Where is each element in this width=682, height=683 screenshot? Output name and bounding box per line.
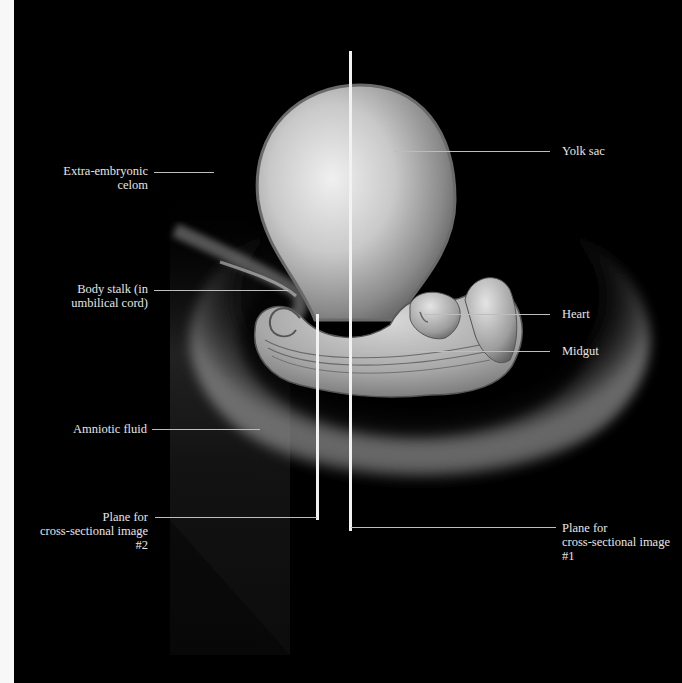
label-plane-1: Plane for cross-sectional image #1 — [562, 521, 670, 563]
leader-plane-1 — [351, 527, 556, 528]
label-heart: Heart — [562, 307, 590, 321]
leader-extra-embryonic-celom — [154, 172, 214, 173]
leader-plane-2 — [155, 517, 317, 518]
leader-midgut — [362, 351, 550, 352]
leader-yolk-sac — [394, 151, 550, 152]
label-plane-2: Plane for cross-sectional image #2 — [40, 510, 148, 552]
label-extra-embryonic-celom: Extra-embryonic celom — [63, 164, 148, 192]
label-body-stalk: Body stalk (in umbilical cord) — [71, 282, 148, 310]
leader-amniotic-fluid — [152, 429, 260, 430]
label-midgut: Midgut — [562, 344, 599, 358]
embryo-illustration — [0, 0, 682, 683]
label-yolk-sac: Yolk sac — [562, 144, 605, 158]
leader-heart — [424, 314, 550, 315]
plane-line-1 — [349, 51, 352, 531]
label-amniotic-fluid: Amniotic fluid — [73, 422, 147, 436]
plane-line-2 — [316, 314, 319, 520]
leader-body-stalk — [154, 290, 288, 291]
